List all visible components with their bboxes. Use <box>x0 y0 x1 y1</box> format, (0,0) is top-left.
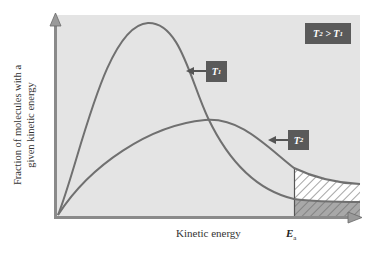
activation-energy-label: Ea <box>286 227 296 242</box>
relation-operator: > <box>323 28 334 39</box>
y-axis <box>54 24 57 218</box>
temperature-relation-label: T2 > T1 <box>305 23 351 44</box>
y-axis-label: Fraction of molecules with a given kinet… <box>4 30 44 220</box>
t2-label-sub: 2 <box>300 136 304 144</box>
t2-label: T2 <box>288 130 309 150</box>
x-axis <box>54 216 352 219</box>
y-axis-label-line-1: Fraction of molecules with a <box>11 65 24 185</box>
x-axis-label: Kinetic energy <box>176 227 241 239</box>
t1-label-sub: 1 <box>218 68 222 76</box>
ea-sub: a <box>293 234 296 242</box>
y-axis-label-line-2: given kinetic energy <box>24 65 37 185</box>
t1-label: T1 <box>206 61 227 82</box>
relation-sub-b: 1 <box>339 30 343 38</box>
maxwell-boltzmann-diagram: T1 T2 T2 > T1 Fraction of molecules with… <box>0 0 376 253</box>
